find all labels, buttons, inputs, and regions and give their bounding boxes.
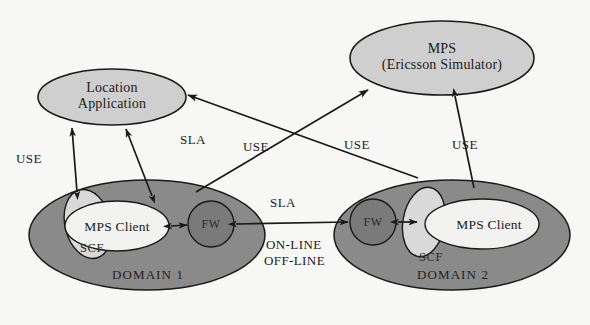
edge-label-online: ON-LINE [266, 238, 322, 253]
edge-domain2-to-location-application [188, 95, 418, 178]
edge-label-use-right-inner: USE [344, 138, 370, 153]
edge-label-sla-left: SLA [180, 133, 206, 148]
domain1-label: DOMAIN 1 [104, 268, 192, 283]
domain1-scf-label: SCF [75, 241, 109, 255]
domain1-fw-label: FW [197, 218, 225, 231]
domain2-mps-client-label: MPS Client [449, 217, 529, 232]
domain2-scf-label: SCF [414, 250, 448, 264]
edge-domain1-to-mps [196, 90, 368, 192]
domain1-mps-client-label: MPS Client [77, 219, 157, 234]
edge-use-left [72, 128, 77, 192]
location-application-line2: Application [78, 96, 146, 111]
location-application-line1: Location [86, 80, 137, 95]
edge-label-offline: OFF-LINE [264, 254, 325, 269]
edge-domain1-mpsclient-fw [171, 225, 187, 226]
edge-label-use-center: USE [243, 140, 269, 155]
edge-label-use-left: USE [16, 152, 42, 167]
domain2-label: DOMAIN 2 [409, 268, 497, 283]
edge-label-sla-center: SLA [270, 196, 296, 211]
mps-line2: (Ericsson Simulator) [382, 57, 502, 72]
edge-label-use-right-outer: USE [452, 138, 478, 153]
domain2-fw-label: FW [359, 216, 387, 229]
location-application-label: Location Application [62, 80, 162, 111]
mps-label: MPS (Ericsson Simulator) [357, 41, 527, 72]
mps-line1: MPS [428, 41, 457, 56]
diagram-canvas: Location Application MPS (Ericsson Simul… [0, 0, 590, 325]
